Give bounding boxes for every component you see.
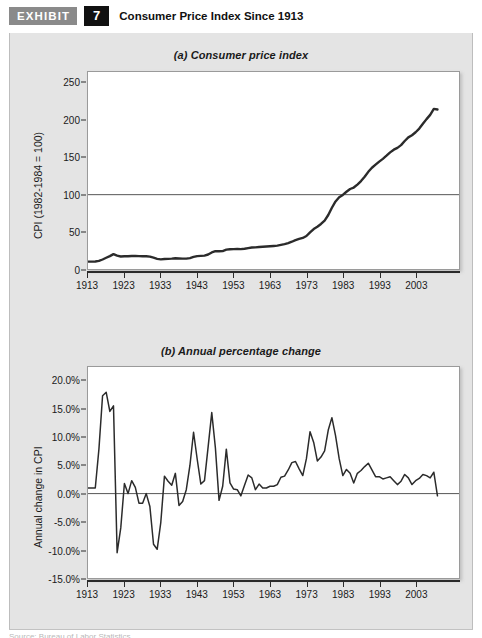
x-tick-label: 1933 xyxy=(149,589,171,600)
chart-b-y-axis-label: Annual change in CPI xyxy=(32,446,44,548)
x-tick-label: 1923 xyxy=(112,589,134,600)
chart-a-y-axis-label: CPI (1982-1984 = 100) xyxy=(32,132,44,239)
chart-b-plot-area xyxy=(87,366,460,579)
x-tick-mark xyxy=(343,582,344,587)
x-tick-label: 1963 xyxy=(259,280,281,291)
y-tick-mark xyxy=(81,437,86,438)
exhibit-tag-label: EXHIBIT xyxy=(9,7,77,25)
x-axis-baseline xyxy=(87,580,460,582)
x-tick-label: 2003 xyxy=(405,280,427,291)
y-tick-mark xyxy=(81,82,86,83)
x-tick-mark xyxy=(87,582,88,587)
x-tick-mark xyxy=(233,582,234,587)
y-tick-mark xyxy=(81,119,86,120)
x-tick-mark xyxy=(270,273,271,278)
y-tick-label: 150 xyxy=(38,152,80,163)
chart-b-title: (b) Annual percentage change xyxy=(10,345,472,357)
x-tick-mark xyxy=(307,582,308,587)
y-tick-mark xyxy=(81,194,86,195)
x-tick-label: 1963 xyxy=(259,589,281,600)
x-tick-label: 1993 xyxy=(369,280,391,291)
chart-a-plot-area xyxy=(87,71,460,270)
x-tick-label: 1953 xyxy=(222,280,244,291)
x-tick-label: 1973 xyxy=(295,280,317,291)
x-tick-label: 1913 xyxy=(76,589,98,600)
y-tick-label: -5.0% xyxy=(20,517,80,528)
chart-a-canvas xyxy=(88,72,459,269)
x-tick-mark xyxy=(160,273,161,278)
x-tick-label: 1983 xyxy=(332,589,354,600)
x-tick-mark xyxy=(416,582,417,587)
y-tick-label: 200 xyxy=(38,114,80,125)
x-tick-label: 1933 xyxy=(149,280,171,291)
x-tick-mark xyxy=(380,582,381,587)
x-tick-label: 1973 xyxy=(295,589,317,600)
y-tick-label: 5.0% xyxy=(20,460,80,471)
y-tick-label: 15.0% xyxy=(20,403,80,414)
x-tick-mark xyxy=(197,273,198,278)
x-tick-mark xyxy=(416,273,417,278)
y-tick-label: -10.0% xyxy=(20,545,80,556)
x-tick-mark xyxy=(87,273,88,278)
x-tick-label: 1943 xyxy=(186,589,208,600)
x-tick-mark xyxy=(233,273,234,278)
y-tick-mark xyxy=(81,380,86,381)
y-tick-mark xyxy=(81,408,86,409)
x-tick-label: 1983 xyxy=(332,280,354,291)
y-tick-label: 20.0% xyxy=(20,375,80,386)
y-tick-mark xyxy=(81,465,86,466)
exhibit-number-badge: 7 xyxy=(84,6,109,26)
y-tick-label: 0.0% xyxy=(20,488,80,499)
y-tick-mark xyxy=(81,232,86,233)
x-tick-label: 2003 xyxy=(405,589,427,600)
y-tick-label: 100 xyxy=(38,189,80,200)
cpi-change-line-series xyxy=(88,392,437,552)
y-tick-mark xyxy=(81,157,86,158)
exhibit-header: EXHIBIT 7 Consumer Price Index Since 191… xyxy=(0,0,482,32)
x-tick-mark xyxy=(124,273,125,278)
y-tick-mark xyxy=(81,522,86,523)
footer-cut-text: Source: Bureau of Labor Statistics xyxy=(9,632,473,638)
exhibit-title: Consumer Price Index Since 1913 xyxy=(119,10,303,22)
x-tick-label: 1953 xyxy=(222,589,244,600)
y-tick-label: 10.0% xyxy=(20,432,80,443)
y-tick-mark xyxy=(81,579,86,580)
x-tick-label: 1913 xyxy=(76,280,98,291)
y-tick-mark xyxy=(81,493,86,494)
footer-divider xyxy=(9,629,473,630)
y-tick-mark xyxy=(81,550,86,551)
x-tick-label: 1923 xyxy=(112,280,134,291)
chart-b-canvas xyxy=(88,367,459,578)
x-tick-label: 1993 xyxy=(369,589,391,600)
x-tick-mark xyxy=(270,582,271,587)
exhibit-panel: (a) Consumer price index (b) Annual perc… xyxy=(9,33,473,629)
x-tick-label: 1943 xyxy=(186,280,208,291)
y-tick-label: 250 xyxy=(38,77,80,88)
y-tick-label: -15.0% xyxy=(20,574,80,585)
x-tick-mark xyxy=(380,273,381,278)
y-tick-mark xyxy=(81,270,86,271)
x-tick-mark xyxy=(124,582,125,587)
y-tick-label: 0 xyxy=(38,265,80,276)
y-tick-label: 50 xyxy=(38,227,80,238)
chart-a-title: (a) Consumer price index xyxy=(10,49,472,61)
x-tick-mark xyxy=(343,273,344,278)
x-tick-mark xyxy=(197,582,198,587)
cpi-line-series xyxy=(88,109,437,262)
x-tick-mark xyxy=(160,582,161,587)
x-tick-mark xyxy=(307,273,308,278)
x-axis-baseline xyxy=(87,271,460,273)
